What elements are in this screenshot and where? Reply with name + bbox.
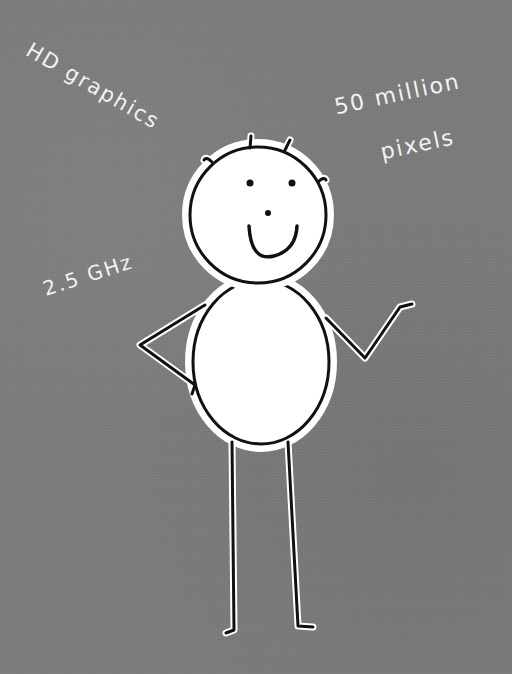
left-eye-icon [247, 180, 254, 187]
hair-strand-icon [250, 136, 251, 148]
nose-icon [265, 210, 271, 216]
stick-figure-illustration [0, 0, 512, 674]
chalkboard-canvas: HD graphics 50 million pixels 2.5 GHz [0, 0, 512, 674]
right-eye-icon [289, 180, 296, 187]
head-icon [190, 147, 326, 283]
body-icon [193, 280, 329, 444]
